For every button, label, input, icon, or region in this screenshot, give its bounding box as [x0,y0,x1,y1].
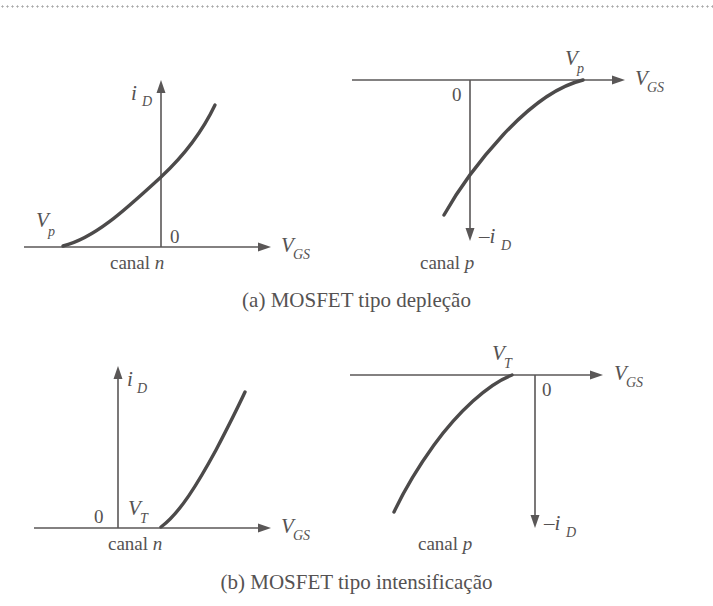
chart-svg-depletion-p: V GS 0 –i D V p [340,40,680,270]
chart-svg-depletion-n: i D V GS 0 V p [0,60,330,270]
transfer-curve [161,392,245,527]
sub-caption-word: canal [420,252,460,273]
dotted-rule-divider [0,5,713,8]
origin-label-zero: 0 [542,379,552,400]
sub-caption-word: canal [418,533,458,554]
sub-caption-enhancement-n: canal n [108,533,162,555]
sub-caption-enhancement-p: canal p [418,533,472,555]
y-axis-label-sub-D: D [136,381,147,396]
chart-enhancement-p-channel: V GS 0 –i D V T [340,340,680,555]
x-axis-label-sub-GS: GS [626,375,643,390]
y-axis-arrowhead [157,80,166,93]
chart-depletion-p-channel: V GS 0 –i D V p [340,40,680,270]
x-axis-arrowhead [258,243,271,252]
x-axis-label-sub-GS: GS [293,247,310,262]
x-axis-arrowhead [590,371,603,380]
y-axis-label-minus-i: –i [543,511,561,535]
y-axis-arrowhead [114,366,123,379]
sub-caption-depletion-p: canal p [420,252,474,274]
chart-svg-enhancement-n: i D V GS 0 V T [0,355,330,555]
sub-caption-letter: n [155,252,165,273]
transfer-curve [444,80,583,215]
y-axis-arrowhead [531,515,540,528]
caption-b: (b) MOSFET tipo intensificação [0,570,713,595]
sub-caption-letter: n [153,533,163,554]
origin-label-zero: 0 [94,506,104,527]
transfer-curve [394,375,512,512]
origin-label-zero: 0 [170,226,180,247]
y-axis-label-i: i [131,81,137,105]
chart-depletion-n-channel: i D V GS 0 V p [0,60,330,270]
y-axis-label-sub-D: D [500,238,511,253]
transfer-curve [63,105,215,246]
threshold-label-sub-T: T [140,511,149,526]
sub-caption-depletion-n: canal n [110,252,164,274]
x-axis-label-sub-GS: GS [647,80,664,95]
sub-caption-letter: p [465,252,475,273]
threshold-label-sub-T: T [504,356,513,371]
threshold-label-sub-p: p [576,61,584,76]
figure-root: i D V GS 0 V p canal n V GS [0,0,713,606]
x-axis-label-sub-GS: GS [293,528,310,543]
sub-caption-word: canal [108,533,148,554]
x-axis-arrowhead [258,524,271,533]
y-axis-label-i: i [127,367,133,391]
sub-caption-word: canal [110,252,150,273]
chart-enhancement-n-channel: i D V GS 0 V T [0,355,330,555]
chart-svg-enhancement-p: V GS 0 –i D V T [340,340,680,555]
x-axis-arrowhead [612,76,625,85]
y-axis-label-sub-D: D [565,525,576,540]
y-axis-arrowhead [466,228,475,241]
y-axis-label-minus-i: –i [478,224,496,248]
threshold-label-sub-p: p [47,224,55,239]
caption-a: (a) MOSFET tipo depleção [0,288,713,313]
sub-caption-letter: p [463,533,473,554]
origin-label-zero: 0 [452,84,462,105]
y-axis-label-sub-D: D [141,94,152,109]
